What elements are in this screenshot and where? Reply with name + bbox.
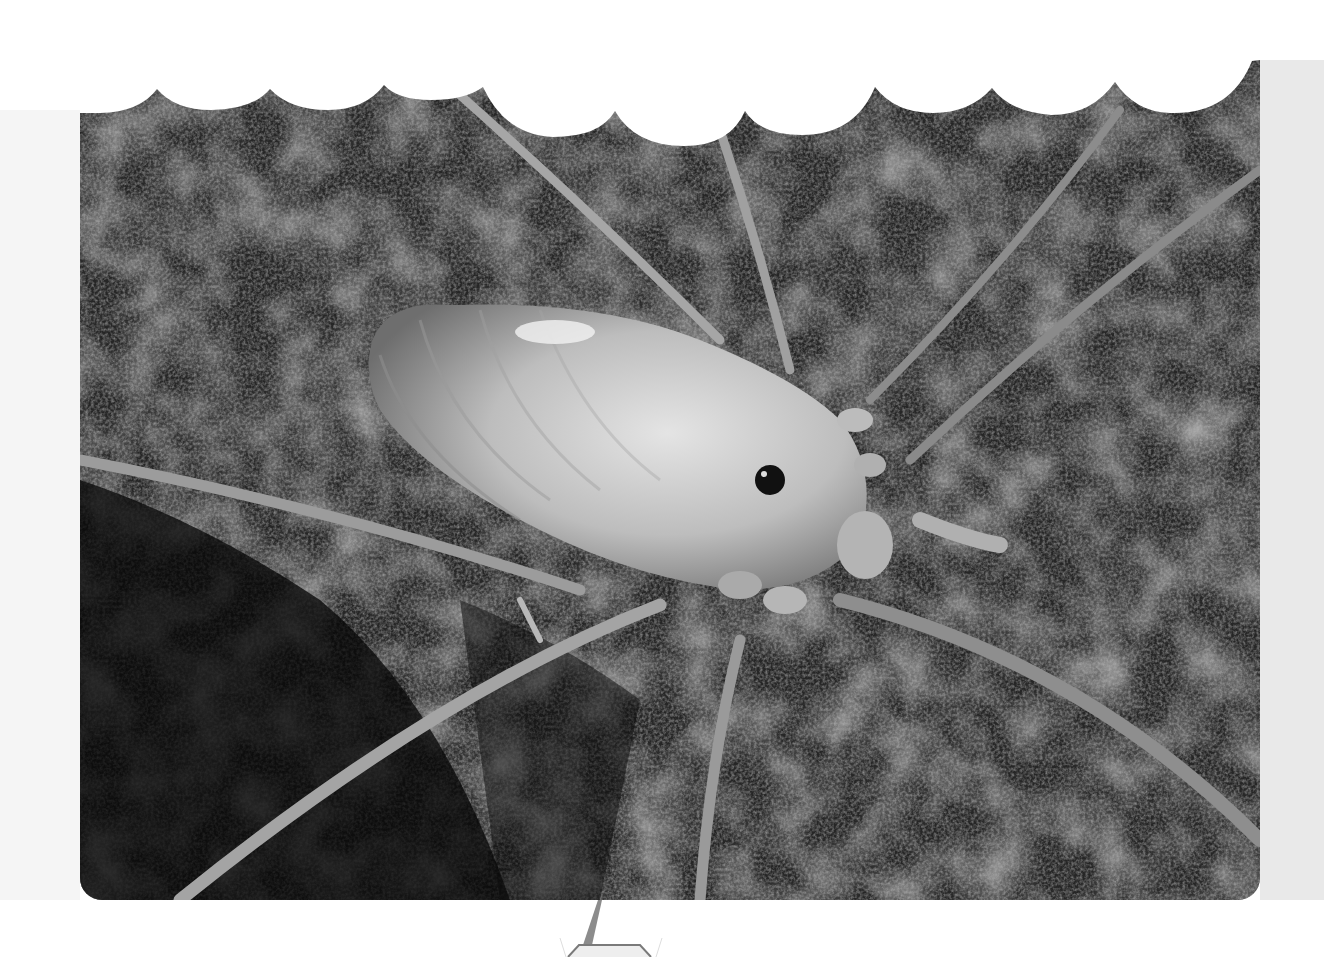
right-page-top-gap [1260, 0, 1324, 62]
harvestman-photo [80, 0, 1260, 900]
callout-pointer [0, 900, 1324, 957]
adjacent-page-strip [1260, 60, 1324, 957]
eye-icon [755, 465, 785, 495]
photo-illustration [80, 0, 1260, 900]
left-page-margin [0, 110, 80, 957]
below-photo-area [0, 900, 1324, 957]
